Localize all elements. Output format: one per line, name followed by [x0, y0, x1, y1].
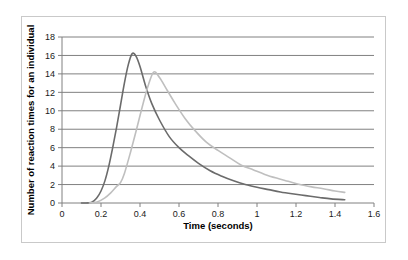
data-curve-series-light [89, 72, 344, 203]
x-tick-label: 1.6 [368, 209, 381, 219]
y-tick-label: 2 [50, 180, 55, 190]
x-axis-title: Time (seconds) [183, 220, 253, 231]
x-tick-label: 1.4 [329, 209, 342, 219]
chart-canvas: 00.20.40.60.811.21.41.6 024681012141618 … [0, 0, 408, 260]
y-tick-label: 14 [45, 69, 55, 79]
x-tick-label: 1 [254, 209, 259, 219]
y-axis-tick-labels: 024681012141618 [45, 32, 55, 208]
y-tick-label: 4 [50, 161, 55, 171]
x-tick-label: 0.8 [212, 209, 225, 219]
x-tick-label: 0.2 [95, 209, 108, 219]
y-axis-title: Number of reaction times for an individu… [25, 25, 36, 216]
y-tick-label: 10 [45, 106, 55, 116]
x-tick-label: 0.6 [173, 209, 186, 219]
y-tick-label: 18 [45, 32, 55, 42]
y-tick-label: 16 [45, 51, 55, 61]
y-axis-ticks [58, 37, 62, 203]
x-axis-ticks [62, 203, 374, 207]
y-tick-label: 12 [45, 88, 55, 98]
x-tick-label: 0 [59, 209, 64, 219]
x-tick-label: 1.2 [290, 209, 303, 219]
figure-root: 00.20.40.60.811.21.41.6 024681012141618 … [0, 0, 408, 260]
gridlines [62, 37, 374, 203]
y-tick-label: 6 [50, 143, 55, 153]
y-tick-label: 8 [50, 124, 55, 134]
x-axis-tick-labels: 00.20.40.60.811.21.41.6 [59, 209, 380, 219]
x-tick-label: 0.4 [134, 209, 147, 219]
y-tick-label: 0 [50, 198, 55, 208]
data-series-group [82, 53, 345, 203]
